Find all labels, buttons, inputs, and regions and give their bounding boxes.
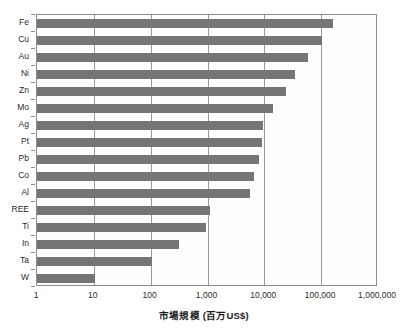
y-axis-label-w: W <box>21 269 29 286</box>
y-axis-tick <box>31 252 35 253</box>
bar[interactable] <box>37 240 179 249</box>
y-axis-tick <box>31 14 35 15</box>
y-axis-tick <box>31 133 35 134</box>
bar[interactable] <box>37 87 286 96</box>
y-axis-label-pt: Pt <box>21 133 29 150</box>
y-axis-label-zn: Zn <box>19 82 29 99</box>
y-axis-category-labels: FeCuAuNiZnMoAgPtPbCoAlREETiInTaW <box>0 14 33 286</box>
y-axis-label-al: Al <box>21 184 29 201</box>
bar-slot <box>37 168 378 185</box>
bar-slot <box>37 185 378 202</box>
bar-slot <box>37 66 378 83</box>
bar[interactable] <box>37 189 250 198</box>
x-axis-tick-labels: 1101001,00010,000100,0001,000,000 <box>0 290 408 304</box>
y-axis-tick <box>31 184 35 185</box>
y-axis-tick <box>31 269 35 270</box>
x-axis-tick-label: 1,000,000 <box>358 290 396 300</box>
y-axis-tick <box>31 99 35 100</box>
x-axis-tick-label: 100 <box>143 290 157 300</box>
bar-slot <box>37 219 378 236</box>
bar-chart: FeCuAuNiZnMoAgPtPbCoAlREETiInTaW 1101001… <box>0 0 408 336</box>
bar-slot <box>37 134 378 151</box>
bar-slot <box>37 83 378 100</box>
bar[interactable] <box>37 172 254 181</box>
y-axis-tick <box>31 65 35 66</box>
y-axis-tick <box>31 235 35 236</box>
y-axis-tick <box>31 116 35 117</box>
bar-slot <box>37 151 378 168</box>
y-axis-label-pb: Pb <box>19 150 29 167</box>
x-axis-tick-label: 1 <box>34 290 39 300</box>
y-axis-label-ti: Ti <box>22 218 29 235</box>
bar[interactable] <box>37 19 333 28</box>
bar-slot <box>37 270 378 287</box>
y-axis-tick <box>31 167 35 168</box>
y-axis-label-ree: REE <box>12 201 29 218</box>
x-axis-title: 市場規模 (百万US$) <box>0 308 408 322</box>
bar-slot <box>37 15 378 32</box>
bar-slot <box>37 236 378 253</box>
y-axis-label-au: Au <box>19 48 29 65</box>
y-axis-label-fe: Fe <box>19 14 29 31</box>
y-axis-label-ni: Ni <box>21 65 29 82</box>
bar-slot <box>37 32 378 49</box>
bar-slot <box>37 253 378 270</box>
y-axis-label-cu: Cu <box>18 31 29 48</box>
y-axis-label-mo: Mo <box>17 99 29 116</box>
bar[interactable] <box>37 104 273 113</box>
bar-slot <box>37 202 378 219</box>
bar-slot <box>37 100 378 117</box>
bar[interactable] <box>37 274 95 283</box>
y-axis-tick <box>31 150 35 151</box>
bar[interactable] <box>37 155 259 164</box>
x-axis-tick-label: 10 <box>88 290 97 300</box>
y-axis-label-in: In <box>22 235 29 252</box>
x-axis-tick-label: 100,000 <box>305 290 336 300</box>
bar-slot <box>37 117 378 134</box>
y-axis-label-co: Co <box>18 167 29 184</box>
bar[interactable] <box>37 36 322 45</box>
y-axis-label-ag: Ag <box>19 116 29 133</box>
y-axis-tick <box>31 201 35 202</box>
bar[interactable] <box>37 257 152 266</box>
y-axis-tick <box>31 82 35 83</box>
bar[interactable] <box>37 53 308 62</box>
plot-area <box>36 14 377 286</box>
bar[interactable] <box>37 138 262 147</box>
y-axis-tick <box>31 31 35 32</box>
x-axis-tick-label: 10,000 <box>250 290 276 300</box>
y-axis-tick <box>31 286 35 287</box>
bar-slot <box>37 49 378 66</box>
bar[interactable] <box>37 70 295 79</box>
y-axis-label-ta: Ta <box>20 252 29 269</box>
bar[interactable] <box>37 121 263 130</box>
bar-series <box>37 15 376 285</box>
y-axis-tick <box>31 48 35 49</box>
bar[interactable] <box>37 206 210 215</box>
y-axis-tick <box>31 218 35 219</box>
bar[interactable] <box>37 223 206 232</box>
x-axis-tick-label: 1,000 <box>196 290 217 300</box>
